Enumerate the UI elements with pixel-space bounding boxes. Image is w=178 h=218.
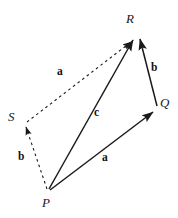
point-label-S: S xyxy=(8,110,15,123)
point-label-Q: Q xyxy=(160,96,169,109)
vector-arrow-PR xyxy=(49,40,133,189)
vector-diagram: R Q P S a b c a b xyxy=(0,0,178,218)
point-label-R: R xyxy=(126,12,134,25)
point-label-P: P xyxy=(42,196,50,209)
vector-diagram-canvas xyxy=(0,0,178,218)
vector-label-PS-b: b xyxy=(18,151,24,163)
vector-arrow-PS xyxy=(26,127,47,189)
vector-label-SR-a: a xyxy=(57,66,63,78)
vector-label-PR-c: c xyxy=(94,107,99,119)
vector-label-PQ-a: a xyxy=(102,152,108,164)
vector-arrow-SR xyxy=(27,42,131,122)
vector-label-QR-b: b xyxy=(151,62,157,74)
